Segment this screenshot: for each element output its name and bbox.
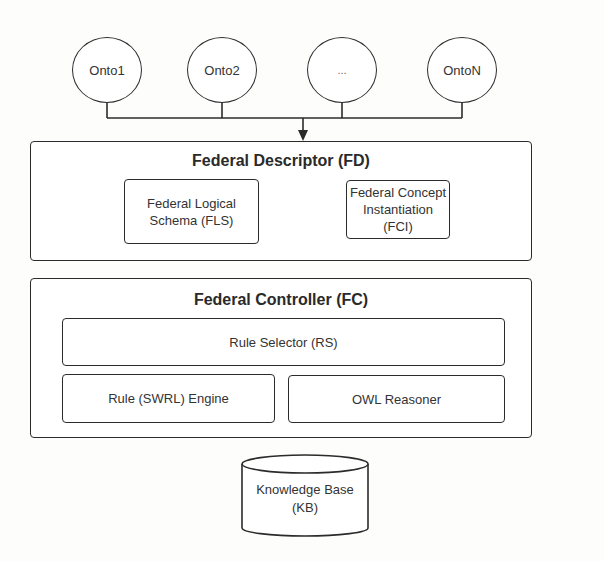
fls-line2: Schema (FLS) — [150, 212, 234, 229]
ontology-node-2: Onto2 — [187, 37, 257, 103]
federal-descriptor-title: Federal Descriptor (FD) — [31, 152, 531, 170]
federal-concept-instantiation-box: Federal Concept Instantiation (FCI) — [346, 180, 450, 239]
knowledge-base-label: Knowledge Base (KB) — [242, 481, 368, 517]
federal-logical-schema-box: Federal Logical Schema (FLS) — [124, 179, 259, 244]
ontology-node-ellipsis: ... — [307, 37, 377, 103]
ontology-label: Onto1 — [89, 62, 124, 79]
ontology-node-n: OntoN — [427, 37, 497, 103]
rule-selector-label: Rule Selector (RS) — [229, 334, 337, 351]
owl-reasoner-label: OWL Reasoner — [352, 391, 441, 408]
fls-line1: Federal Logical — [147, 195, 236, 212]
kb-line2: (KB) — [242, 499, 368, 517]
federal-descriptor-container: Federal Descriptor (FD) — [30, 141, 532, 261]
ontology-label: ... — [337, 62, 346, 79]
rule-engine-box: Rule (SWRL) Engine — [62, 374, 275, 423]
rule-engine-label: Rule (SWRL) Engine — [108, 390, 229, 407]
ontology-label: Onto2 — [204, 62, 239, 79]
rule-selector-box: Rule Selector (RS) — [62, 318, 505, 366]
kb-line1: Knowledge Base — [242, 481, 368, 499]
fci-line2: Instantiation (FCI) — [347, 201, 449, 235]
federal-controller-title: Federal Controller (FC) — [31, 291, 531, 309]
owl-reasoner-box: OWL Reasoner — [288, 375, 505, 423]
fci-line1: Federal Concept — [350, 184, 446, 201]
ontology-node-1: Onto1 — [72, 37, 142, 103]
arrow-down-icon — [298, 130, 308, 141]
ontology-label: OntoN — [443, 62, 481, 79]
